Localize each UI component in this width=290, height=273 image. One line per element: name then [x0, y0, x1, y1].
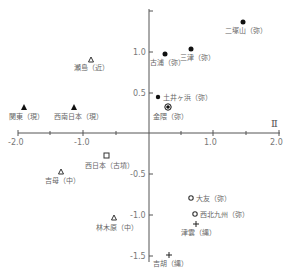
marker-plus [193, 221, 199, 227]
point-label: 大友（弥） [196, 194, 231, 203]
marker-open-square [104, 153, 109, 158]
point-label: 林木原（中） [96, 223, 138, 232]
point-label: 関東（現） [9, 112, 44, 121]
y-tick-label: 0.5 [133, 89, 146, 98]
marker-filled-circle [156, 95, 160, 99]
marker-filled-circle [189, 47, 194, 52]
marker-open-triangle [59, 169, 64, 174]
axis-label-roman-two: Ⅱ [271, 118, 278, 129]
marker-open-triangle [112, 215, 117, 220]
marker-open-circle [193, 212, 197, 216]
x-tick-label: -2.0 [8, 138, 24, 147]
marker-filled-triangle [71, 104, 77, 110]
marker-filled-triangle [21, 104, 27, 110]
scatter-plot: -2.0 -1.0 1.0 2.0 1.0 0.5 -0.5 -1.0 -1.5… [0, 0, 290, 273]
marker-open-triangle [89, 57, 94, 62]
x-tick-label: -1.0 [74, 138, 90, 147]
y-tick-label: -1.0 [130, 211, 146, 220]
point-label: 西北九州（弥） [200, 210, 249, 219]
point-label: 吉母（中） [45, 176, 80, 185]
marker-bullseye-center [166, 105, 170, 109]
y-tick-label: 1.0 [133, 48, 146, 57]
point-label: 土井ヶ浜（弥） [163, 93, 212, 102]
y-tick-label: -1.5 [130, 252, 146, 261]
point-label: 金隈（弥） [153, 112, 188, 121]
marker-open-circle [189, 196, 193, 200]
point-label: 西南日本（現） [54, 112, 103, 121]
point-label: 二塚山（弥） [225, 26, 267, 35]
x-tick-label: 2.0 [270, 138, 283, 147]
point-label: 瀬島（近） [74, 63, 109, 72]
marker-filled-circle [241, 20, 246, 25]
point-label: 津雲（縄） [181, 228, 216, 237]
point-label: 吉胡（縄） [153, 259, 188, 268]
point-label: 古浦（弥） [150, 58, 185, 67]
point-label: 西日本（古墳） [85, 161, 134, 170]
x-tick-label: 1.0 [204, 138, 217, 147]
marker-plus [166, 252, 172, 258]
point-label: 三津（弥） [180, 53, 215, 62]
y-tick-label: -0.5 [130, 170, 146, 179]
marker-filled-circle [163, 52, 168, 57]
